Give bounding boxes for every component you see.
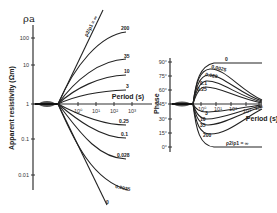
phase-label-200: 200 (203, 132, 212, 138)
phase-tick-0: 0° (162, 144, 167, 150)
phase-tick-15: 15° (159, 130, 167, 136)
rho-a-symbol: ρa (23, 13, 35, 24)
y-tick-1: 1 (26, 101, 29, 107)
phase-chart: Phase 90° 75° 60° 45° 30° 15° 0° 10⁰ (153, 56, 277, 152)
label-0.25: 0.25 (119, 118, 129, 124)
label-3: 3 (126, 83, 129, 89)
phase-tick-90: 90° (159, 59, 167, 65)
phase-tick-60: 60° (159, 87, 167, 93)
y-tick-0.01: 0.01 (18, 172, 29, 178)
resistivity-x-axis-title: Period (s) (112, 93, 144, 101)
phase-label-0.028: 0.028 (205, 71, 219, 79)
label-0.0025: 0.0025 (115, 183, 131, 192)
y-tick-100: 100 (20, 35, 29, 41)
label-inf: ρ2/ρ1 = ∞ (83, 14, 99, 37)
label-200: 200 (121, 25, 130, 31)
phase-curve-labels: 0 0.0025 0.028 0.1 0.25 3 10 35 200 ρ2/ρ… (197, 56, 249, 146)
label-0: 0 (106, 199, 109, 205)
phase-label-0: 0 (225, 56, 228, 62)
x-tick-1: 10⁰ (74, 108, 83, 114)
label-0.028: 0.028 (117, 152, 130, 158)
y-tick-10: 10 (23, 62, 29, 68)
phase-tick-30: 30° (159, 116, 167, 122)
label-0.1: 0.1 (121, 131, 128, 137)
phase-tick-45: 45° (159, 101, 167, 107)
curve-0 (58, 104, 107, 205)
x-tick-10: 10¹ (92, 108, 100, 114)
phase-label-0.25: 0.25 (197, 86, 207, 92)
x-tick-1000: 10³ (128, 108, 136, 114)
x-tick-100: 10² (110, 108, 118, 114)
phase-label-inf: ρ2/ρ1 = ∞ (226, 140, 249, 146)
phase-label-35: 35 (200, 122, 206, 128)
phase-tick-75: 75° (159, 73, 167, 79)
label-10: 10 (124, 68, 130, 74)
figure: ρa Apparent resistivity (Ωm) 100 10 1 0.… (0, 0, 277, 213)
label-35: 35 (124, 53, 130, 59)
resistivity-y-axis-title: Apparent resistivity (Ωm) (8, 66, 16, 150)
y-tick-0.1: 0.1 (21, 136, 29, 142)
resistivity-curve-labels: ρ2/ρ1 = ∞ 200 35 10 3 0.25 0.1 0.028 0.0… (83, 14, 132, 205)
resistivity-chart: ρa Apparent resistivity (Ωm) 100 10 1 0.… (8, 10, 152, 205)
